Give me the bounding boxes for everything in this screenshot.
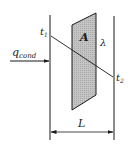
plane-wall-diagram: qcond t1 t2 A λ L — [0, 0, 133, 146]
conductivity-label: λ — [99, 37, 106, 48]
thickness-label: L — [77, 117, 85, 130]
cross-section-area — [72, 13, 96, 110]
area-label: A — [79, 31, 89, 44]
temp-right-label: t2 — [116, 72, 124, 84]
temp-left-label: t1 — [40, 26, 48, 38]
heat-flow-label: qcond — [12, 46, 37, 60]
